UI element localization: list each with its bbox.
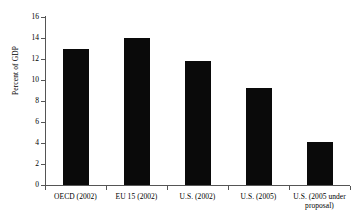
x-axis-tick	[350, 186, 351, 190]
x-axis-label-line: proposal)	[285, 201, 354, 210]
bar	[307, 142, 333, 185]
bar-chart-figure: Percent of GDP 0246810121416 OECD (2002)…	[0, 0, 362, 223]
x-axis-label-line: U.S. (2002)	[163, 192, 232, 201]
x-axis-category-label: U.S. (2002)	[163, 192, 232, 201]
x-axis-category-label: EU 15 (2002)	[102, 192, 171, 201]
x-axis-label-line: U.S. (2005)	[224, 192, 293, 201]
x-axis-tick	[45, 186, 46, 190]
x-axis-label-line: OECD (2002)	[41, 192, 110, 201]
x-axis-category-label: U.S. (2005)	[224, 192, 293, 201]
y-axis-tick-label: 12	[15, 55, 39, 63]
y-axis-tick-label: 10	[15, 76, 39, 84]
x-axis-tick	[167, 186, 168, 190]
y-axis-tick-label: 6	[15, 118, 39, 126]
bars-layer	[45, 17, 350, 185]
x-axis-category-label: OECD (2002)	[41, 192, 110, 201]
x-axis-category-label: U.S. (2005 underproposal)	[285, 192, 354, 210]
x-axis-tick	[289, 186, 290, 190]
x-axis-label-line: U.S. (2005 under	[285, 192, 354, 201]
bar	[63, 49, 89, 186]
bar	[246, 88, 272, 185]
x-axis-label-line: EU 15 (2002)	[102, 192, 171, 201]
y-axis-tick-label: 8	[15, 97, 39, 105]
x-axis-tick	[228, 186, 229, 190]
bar	[185, 61, 211, 185]
y-axis-tick-label: 0	[15, 181, 39, 189]
y-axis-tick-label: 14	[15, 34, 39, 42]
bar	[124, 38, 150, 185]
x-axis-line	[45, 185, 350, 186]
y-axis-tick-label: 2	[15, 160, 39, 168]
x-axis-tick	[106, 186, 107, 190]
y-axis-tick-label: 16	[15, 13, 39, 21]
y-axis-tick-label: 4	[15, 139, 39, 147]
